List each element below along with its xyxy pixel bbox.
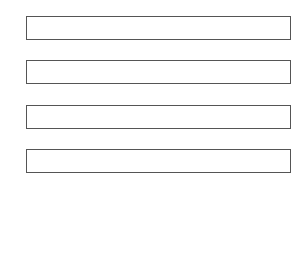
text-field-3[interactable] (26, 105, 291, 129)
text-field-1[interactable] (26, 16, 291, 40)
text-field-2[interactable] (26, 60, 291, 84)
text-field-4[interactable] (26, 149, 291, 173)
form (0, 0, 307, 268)
